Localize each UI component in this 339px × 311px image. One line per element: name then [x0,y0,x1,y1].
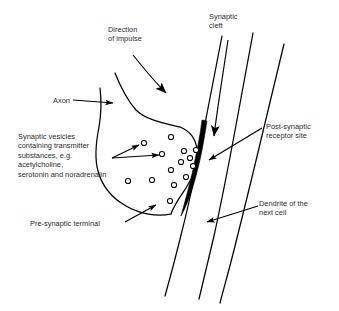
synaptic-cleft-leader [214,40,228,136]
synaptic-vesicles-leader-lower [112,155,159,158]
post-synaptic-receptor-leader [209,128,262,160]
vesicle [183,174,188,179]
vesicle [168,134,173,139]
axon-leader [73,100,113,103]
vesicle [178,159,183,164]
vesicle [168,167,173,172]
vesicle [187,155,192,160]
dendrite-membranes [165,33,284,303]
axon-upper-right-edge [115,73,180,127]
vesicle [167,198,172,203]
label-synaptic-vesicles: Synaptic vesicles containing transmitter… [18,132,106,179]
label-synaptic-cleft: Synaptic cleft [209,12,238,31]
direction-of-impulse-arrow [133,55,166,93]
vesicle [149,177,154,182]
leader-lines [73,40,262,222]
label-axon: Axon [53,96,70,105]
label-direction-of-impulse: Direction of impulse [108,25,142,44]
dendrite-outer-membrane [220,44,284,303]
dendrite-right-membrane [199,33,253,299]
label-post-synaptic-receptor-site: Post-synaptic receptor site [266,122,311,141]
label-pre-synaptic-terminal: Pre-synaptic terminal [30,219,100,228]
vesicle [159,151,164,156]
vesicle [193,147,198,152]
vesicle [171,182,176,187]
vesicle [125,178,130,183]
vesicle [181,148,186,153]
dendrite-leader [207,206,258,222]
diagram-canvas: Direction of impulse Synaptic cleft Axon… [0,0,339,311]
label-dendrite-of-the-next-cell: Dendrite of the next cell [259,199,308,218]
vesicle [190,163,195,168]
vesicle [141,140,146,145]
